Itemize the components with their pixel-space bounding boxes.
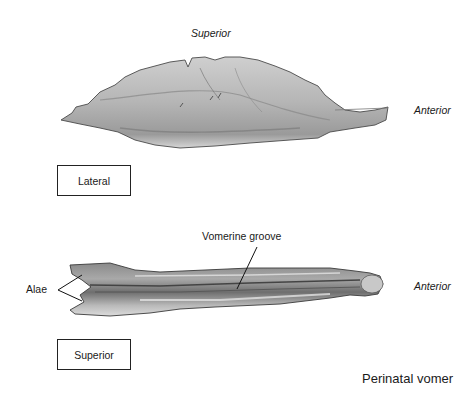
orientation-anterior-label-top: Anterior [414,104,451,116]
vomer-lateral-illustration [61,57,388,148]
figure-title: Perinatal vomer [362,371,453,386]
lateral-view-label: Lateral [78,175,110,187]
orientation-superior-label: Superior [191,27,231,39]
alae-leader-lines [58,275,82,301]
lateral-view-label-box: Lateral [57,165,131,196]
vomer-superior-illustration [70,263,383,316]
alae-label: Alae [26,283,47,295]
superior-view-label: Superior [74,349,114,361]
vomerine-groove-label: Vomerine groove [202,230,281,242]
diagram-artwork [0,0,475,393]
superior-view-label-box: Superior [57,339,131,370]
orientation-anterior-label-bottom: Anterior [414,280,451,292]
